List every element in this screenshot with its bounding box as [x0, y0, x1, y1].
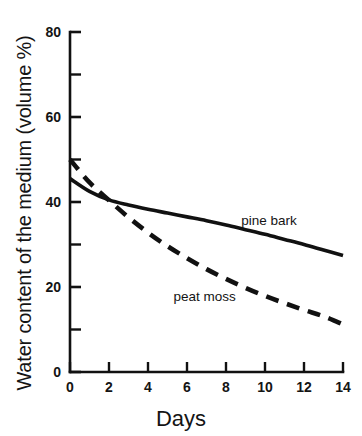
x-tick-label: 6	[183, 379, 191, 395]
y-tick-label: 0	[53, 364, 61, 380]
chart-figure: Water content of the medium (volume %) 0…	[0, 0, 362, 436]
x-tick-label: 0	[66, 379, 74, 395]
x-tick-label: 12	[296, 379, 312, 395]
y-tick-label: 20	[45, 279, 61, 295]
series-line-pine-bark	[70, 179, 343, 256]
series-label-pine-bark: pine bark	[241, 213, 297, 228]
x-axis-ticks: 02468101214	[66, 362, 351, 395]
line-chart-plot: 020406080 02468101214 pine barkpeat moss	[0, 0, 362, 436]
y-tick-label: 40	[45, 194, 61, 210]
y-axis-ticks: 020406080	[45, 24, 81, 380]
y-tick-label: 80	[45, 24, 61, 40]
x-tick-label: 2	[105, 379, 113, 395]
y-tick-label: 60	[45, 109, 61, 125]
x-tick-label: 10	[257, 379, 273, 395]
series-label-peat-moss: peat moss	[173, 289, 236, 304]
x-tick-label: 4	[144, 379, 152, 395]
y-axis-title: Water content of the medium (volume %)	[7, 3, 41, 423]
x-tick-label: 14	[335, 379, 351, 395]
x-axis-title: Days	[0, 404, 362, 434]
x-tick-label: 8	[222, 379, 230, 395]
